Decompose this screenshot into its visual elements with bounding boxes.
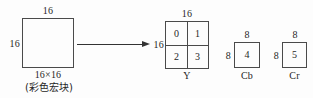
y-block-left-dimension-label: 16	[150, 39, 164, 50]
macroblock-decomposition-diagram: 16 16 16×16 (彩色宏块) 16 16 0 1 2 3 Y 8 8 4…	[0, 0, 313, 98]
y-sub-block-2: 2	[166, 45, 187, 68]
cb-block-name-label: Cb	[234, 70, 260, 81]
cr-block-name-label: Cr	[282, 70, 307, 81]
cr-sub-block-5: 5	[283, 43, 306, 67]
y-sub-block-0: 0	[166, 22, 187, 45]
macroblock-type-label: (彩色宏块)	[12, 82, 86, 93]
macroblock-size-label: 16×16	[22, 69, 74, 80]
cr-block-left-dimension-label: 8	[269, 50, 279, 61]
y-sub-block-3: 3	[187, 45, 208, 68]
y-block-top-dimension-label: 16	[178, 8, 196, 19]
cr-block-square: 5	[282, 42, 307, 68]
cb-block-left-dimension-label: 8	[221, 50, 231, 61]
y-sub-block-1: 1	[187, 22, 208, 45]
macroblock-square	[22, 18, 74, 68]
y-block-name-label: Y	[165, 70, 209, 81]
cb-sub-block-4: 4	[235, 43, 259, 67]
y-block-square: 0 1 2 3	[165, 21, 209, 69]
cr-block-top-dimension-label: 8	[286, 29, 304, 40]
cb-block-top-dimension-label: 8	[238, 29, 256, 40]
arrow-head	[142, 41, 150, 47]
macroblock-top-dimension-label: 16	[40, 5, 56, 16]
cb-block-square: 4	[234, 42, 260, 68]
macroblock-left-dimension-label: 16	[6, 38, 20, 49]
arrow-shaft	[77, 44, 143, 45]
right-arrow-icon	[77, 40, 150, 49]
